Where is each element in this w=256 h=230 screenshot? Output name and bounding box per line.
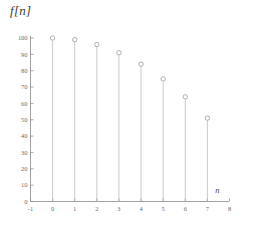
x-tick-label: 6 <box>184 205 187 212</box>
x-tick-label: 1 <box>73 205 76 212</box>
data-point-marker <box>139 62 143 66</box>
data-point-marker <box>161 77 165 81</box>
data-point-marker <box>117 51 121 55</box>
x-tick-label: -1 <box>28 205 33 212</box>
y-tick-label: 70 <box>21 83 27 90</box>
y-tick-label: 80 <box>21 67 27 74</box>
y-tick-label: 40 <box>21 132 27 139</box>
stem-series-group <box>50 36 209 202</box>
y-tick-label: 20 <box>21 165 27 172</box>
stem-point <box>73 37 77 201</box>
x-tick-label: 3 <box>117 205 120 212</box>
stem-point <box>161 77 165 202</box>
y-tick-label: 10 <box>21 181 27 188</box>
x-axis-label: n <box>215 185 219 195</box>
x-tick-label: 2 <box>95 205 98 212</box>
chart-figure: f[n] 0102030405060708090100 -1012345678 … <box>0 0 256 230</box>
x-tick-label: 4 <box>139 205 143 212</box>
y-tick-label: 60 <box>21 100 27 107</box>
x-tick-label: 0 <box>51 205 54 212</box>
data-point-marker <box>183 95 187 99</box>
y-tick-label: 0 <box>24 198 27 205</box>
stem-plot-svg: 0102030405060708090100 -1012345678 n <box>0 0 256 230</box>
stem-point <box>95 42 99 201</box>
x-tick-label: 8 <box>228 205 231 212</box>
data-point-marker <box>205 116 209 120</box>
stem-point <box>139 62 143 202</box>
y-tick-label: 90 <box>21 51 27 58</box>
y-tick-group: 0102030405060708090100 <box>18 34 34 205</box>
data-point-marker <box>73 37 77 41</box>
x-tick-group: -1012345678 <box>28 199 231 213</box>
x-tick-label: 7 <box>206 205 210 212</box>
y-axis-group: 0102030405060708090100 <box>18 34 34 205</box>
data-point-marker <box>50 36 54 40</box>
y-tick-label: 30 <box>21 149 27 156</box>
data-point-marker <box>95 42 99 46</box>
stem-point <box>183 95 187 202</box>
x-tick-label: 5 <box>162 205 165 212</box>
y-tick-label: 50 <box>21 116 27 123</box>
stem-point <box>117 51 121 202</box>
stem-point <box>50 36 54 202</box>
y-tick-label: 100 <box>18 34 28 41</box>
x-axis-group: -1012345678 <box>28 199 231 213</box>
stem-point <box>205 116 209 202</box>
